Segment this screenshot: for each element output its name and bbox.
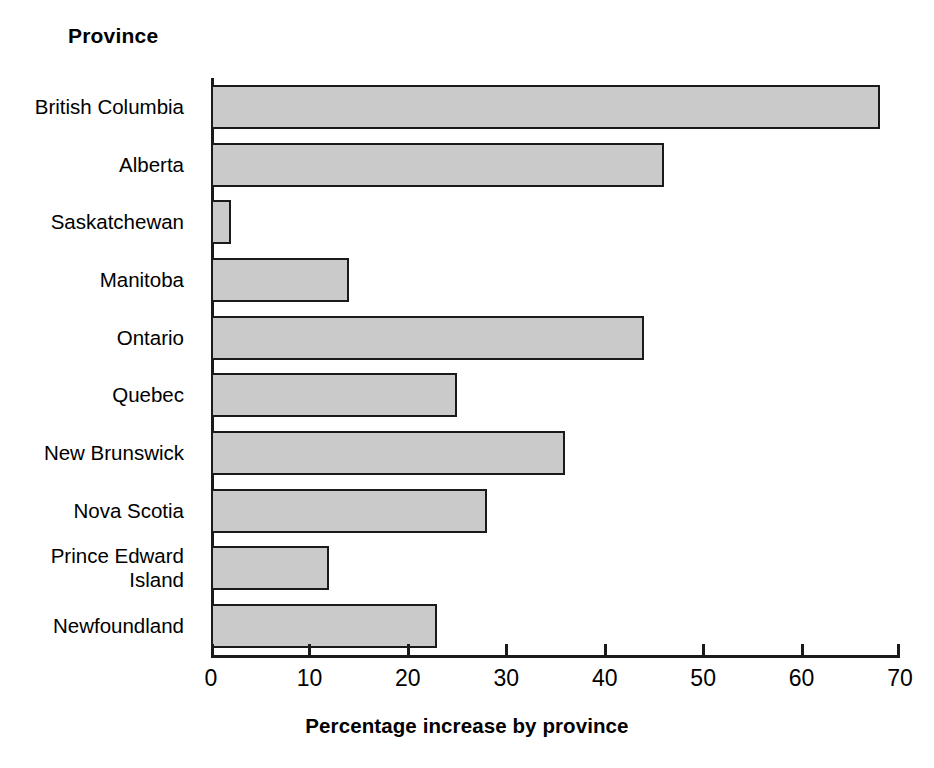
plot-area bbox=[211, 78, 900, 655]
bar bbox=[211, 604, 437, 648]
category-label: Newfoundland bbox=[0, 614, 184, 638]
category-label: Prince Edward Island bbox=[0, 544, 184, 592]
x-axis-tick bbox=[801, 644, 804, 656]
bar bbox=[211, 546, 329, 590]
x-axis-tick bbox=[211, 644, 214, 656]
category-label: British Columbia bbox=[0, 95, 184, 119]
category-label: Manitoba bbox=[0, 268, 184, 292]
x-axis-line bbox=[211, 655, 900, 658]
x-axis: 010203040506070 bbox=[211, 655, 900, 657]
category-label: Quebec bbox=[0, 383, 184, 407]
x-axis-tick bbox=[407, 644, 410, 656]
x-axis-tick-label: 0 bbox=[181, 665, 241, 692]
bar bbox=[211, 373, 457, 417]
x-axis-tick bbox=[505, 644, 508, 656]
bar bbox=[211, 258, 349, 302]
bar bbox=[211, 489, 487, 533]
x-axis-tick-label: 50 bbox=[673, 665, 733, 692]
category-label: Nova Scotia bbox=[0, 499, 184, 523]
bar bbox=[211, 316, 644, 360]
x-axis-tick-label: 30 bbox=[476, 665, 536, 692]
x-axis-tick bbox=[897, 644, 900, 656]
x-axis-tick bbox=[308, 644, 311, 656]
category-label: Ontario bbox=[0, 326, 184, 350]
x-axis-tick-label: 60 bbox=[772, 665, 832, 692]
bar-chart-figure: Province British ColumbiaAlbertaSaskatch… bbox=[0, 0, 934, 768]
x-axis-label: Percentage increase by province bbox=[0, 714, 934, 738]
category-label: Saskatchewan bbox=[0, 210, 184, 234]
category-label-column: British ColumbiaAlbertaSaskatchewanManit… bbox=[0, 78, 198, 655]
x-axis-tick-label: 40 bbox=[575, 665, 635, 692]
y-axis-title: Province bbox=[68, 24, 158, 48]
bar bbox=[211, 431, 565, 475]
bar bbox=[211, 85, 880, 129]
bar bbox=[211, 143, 664, 187]
category-label: New Brunswick bbox=[0, 441, 184, 465]
x-axis-tick bbox=[604, 644, 607, 656]
x-axis-tick-label: 20 bbox=[378, 665, 438, 692]
bar bbox=[211, 200, 231, 244]
category-label: Alberta bbox=[0, 153, 184, 177]
x-axis-tick bbox=[702, 644, 705, 656]
x-axis-tick-label: 70 bbox=[870, 665, 930, 692]
x-axis-tick-label: 10 bbox=[279, 665, 339, 692]
